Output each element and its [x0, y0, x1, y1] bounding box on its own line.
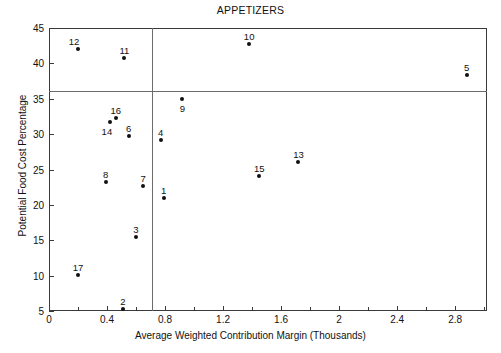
y-axis-title: Potential Food Cost Percentage: [17, 56, 28, 276]
x-minor-tick: [484, 307, 485, 311]
data-point: [108, 120, 112, 124]
x-tick-label: 2.8: [448, 314, 462, 325]
x-minor-tick: [136, 307, 137, 311]
x-tick-label: 0: [46, 314, 52, 325]
x-minor-tick: [252, 307, 253, 311]
data-point: [162, 196, 166, 200]
horizontal-reference-line: [49, 91, 487, 92]
x-tick-label: 0.4: [100, 314, 114, 325]
data-point-label: 17: [73, 262, 84, 273]
x-tick: [107, 306, 108, 311]
data-point-label: 12: [69, 36, 80, 47]
data-point: [104, 180, 108, 184]
x-minor-tick: [426, 307, 427, 311]
x-tick: [223, 306, 224, 311]
x-tick-label: 0.8: [158, 314, 172, 325]
y-tick: [49, 99, 54, 100]
data-point-label: 14: [102, 126, 113, 137]
chart-title: APPETIZERS: [0, 4, 501, 16]
data-point-label: 1: [161, 185, 166, 196]
data-point-label: 10: [244, 31, 255, 42]
data-point-label: 11: [119, 45, 129, 56]
y-tick: [49, 311, 54, 312]
data-point: [121, 307, 125, 311]
data-point: [127, 134, 131, 138]
x-tick: [339, 306, 340, 311]
y-tick: [49, 276, 54, 277]
x-minor-tick: [194, 307, 195, 311]
data-point: [76, 273, 80, 277]
x-tick: [397, 306, 398, 311]
data-point-label: 15: [254, 163, 265, 174]
x-tick-label: 2: [336, 314, 342, 325]
data-point-label: 2: [120, 296, 125, 307]
x-tick-label: 1.6: [274, 314, 288, 325]
x-tick: [281, 306, 282, 311]
x-minor-tick: [368, 307, 369, 311]
y-tick: [49, 134, 54, 135]
x-tick: [455, 306, 456, 311]
data-point-label: 5: [464, 62, 469, 73]
vertical-reference-line: [152, 28, 153, 311]
x-axis-title: Average Weighted Contribution Margin (Th…: [0, 330, 501, 341]
data-point-label: 8: [103, 169, 108, 180]
data-point-label: 9: [180, 103, 185, 114]
data-point-label: 13: [293, 149, 304, 160]
data-point-label: 6: [126, 123, 131, 134]
data-point: [114, 116, 118, 120]
x-tick-label: 1.2: [216, 314, 230, 325]
data-point-label: 4: [158, 127, 163, 138]
y-tick: [49, 170, 54, 171]
y-tick-label: 45: [14, 23, 44, 34]
x-tick-label: 2.4: [390, 314, 404, 325]
data-point: [159, 138, 163, 142]
data-point-label: 16: [110, 105, 121, 116]
y-tick-label: 5: [14, 306, 44, 317]
scatter-chart: APPETIZERS 1211105916146413158713172 00.…: [0, 0, 501, 353]
plot-area: [49, 28, 487, 311]
y-tick: [49, 63, 54, 64]
x-minor-tick: [310, 307, 311, 311]
x-minor-tick: [78, 307, 79, 311]
data-point-label: 7: [141, 173, 146, 184]
y-tick: [49, 240, 54, 241]
data-point-label: 3: [133, 224, 138, 235]
y-tick: [49, 205, 54, 206]
x-tick: [165, 306, 166, 311]
y-tick: [49, 28, 54, 29]
data-point: [247, 42, 251, 46]
